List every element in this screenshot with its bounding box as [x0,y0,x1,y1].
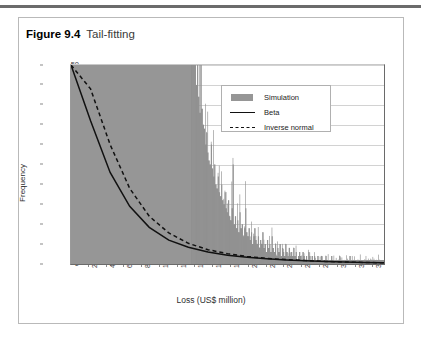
histogram-bar [339,256,340,264]
histogram-bar [195,65,196,264]
histogram-bar [303,252,304,264]
histogram-bar [245,181,246,264]
histogram-bar [249,228,250,264]
histogram-bar [202,109,203,264]
histogram-bar [248,236,249,264]
histogram-bar [274,252,275,264]
histogram-bar [194,65,195,264]
histogram-bar [246,232,247,264]
histogram-bar [193,65,194,264]
figure-caption: Figure 9.4Tail-fitting [26,28,135,40]
histogram-bar [207,112,208,264]
histogram-bar [265,244,266,264]
histogram-bar [293,248,294,264]
histogram-bar [259,247,260,264]
histogram-bar [205,104,206,264]
histogram-bar [280,244,281,264]
histogram-bar [217,188,218,264]
histogram-bar [218,173,219,264]
histogram-bar [213,130,214,264]
histogram-bar [340,257,341,264]
histogram-bar [203,125,204,264]
histogram-bar [212,168,213,264]
histogram-bar [197,65,198,264]
x-axis-label: Loss (US$ million) [26,295,396,305]
histogram-bar [318,256,319,264]
legend-solid-line-icon [229,107,257,118]
histogram-bar [233,158,234,264]
histogram-bar [273,248,274,264]
histogram-bar [219,166,220,264]
chart-legend: Simulation Beta Inverse normal [221,85,331,132]
histogram-bar [196,85,197,264]
histogram-bar [296,246,297,264]
histogram-bar [230,220,231,264]
histogram-bar [371,260,372,264]
legend-item-beta: Beta [222,106,330,119]
histogram-bar [301,255,302,264]
histogram-bar [242,224,243,264]
top-rule-divider [0,5,421,8]
histogram-bar [199,65,200,264]
histogram-bar [269,236,270,264]
histogram-bar [287,252,288,264]
histogram-bar [309,252,310,264]
histogram-bar [236,228,237,264]
legend-dashed-line-icon [229,122,257,133]
histogram-bar [288,253,289,264]
histogram-bar [334,256,335,264]
histogram-bar [211,142,212,264]
histogram-bar [232,182,233,264]
histogram-bar [304,253,305,264]
histogram-bar [238,232,239,264]
histogram-bar [250,236,251,264]
histogram-bar [314,252,315,264]
histogram-bar [237,203,238,264]
histogram-bar [234,224,235,264]
histogram-bar [256,236,257,264]
histogram-bar [290,252,291,264]
histogram-bar [285,244,286,264]
figure-panel: Figure 9.4Tail-fitting Frequency 0510152… [0,0,421,338]
histogram-bar [308,250,309,264]
histogram-bar [210,165,211,265]
histogram-bar [244,226,245,264]
y-axis-label: Frequency [18,164,27,202]
figure-title: Tail-fitting [86,28,135,40]
histogram-bar [321,256,322,264]
histogram-bar [322,256,323,264]
histogram-bar [320,257,321,264]
histogram-bar [241,228,242,264]
histogram-bar [261,244,262,264]
histogram-bar [283,249,284,264]
histogram-bar [243,235,244,264]
histogram-bar [204,129,205,264]
legend-label-inverse-normal: Inverse normal [264,123,314,132]
histogram-bar [299,252,300,264]
legend-item-inverse-normal: Inverse normal [222,121,330,134]
chart-container: Frequency 05101520253035404550 211422633… [26,52,396,314]
histogram-bar [342,257,343,264]
histogram-bar [291,252,292,264]
histogram-bar [264,240,265,264]
histogram-bar [198,97,199,264]
histogram-bar [206,132,207,264]
histogram-bar [268,248,269,264]
histogram-bar [267,240,268,264]
histogram-bar [326,256,327,264]
histogram-bar [275,243,276,264]
histogram-bar [328,254,329,264]
histogram-bar [201,65,202,264]
legend-label-simulation: Simulation [264,93,299,102]
histogram-bar [279,252,280,264]
histogram-bar [253,234,254,264]
histogram-bar [282,244,283,264]
histogram-bar [277,241,278,264]
histogram-bar [209,161,210,264]
histogram-bar [229,216,230,264]
figure-number: Figure 9.4 [26,28,80,40]
histogram-bar [289,248,290,264]
histogram-bar [312,256,313,264]
histogram-bar [331,256,332,264]
histogram-bar [257,244,258,264]
